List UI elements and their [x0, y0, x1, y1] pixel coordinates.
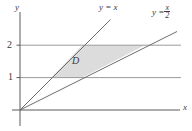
x-axis-label: x: [183, 103, 187, 112]
y-tick-label-2: 2: [7, 40, 12, 50]
line-label-y-equals-x: y = x: [99, 3, 118, 12]
shaded-region-d: [51, 45, 145, 77]
math-figure: y x 2 1 y = x y =x2 D: [0, 0, 192, 131]
fraction-x-over-2: x2: [164, 4, 170, 20]
line-y-equals-x-over-2: [20, 32, 177, 111]
fraction-denominator: 2: [164, 11, 170, 20]
line-label-y-equals-x-over-2: y =x2: [152, 5, 170, 21]
y-tick-label-1: 1: [8, 72, 13, 82]
y-axis-label: y: [15, 3, 19, 12]
line-label-lhs: y =: [152, 7, 164, 17]
region-label-d: D: [72, 56, 79, 66]
fraction-numerator: x: [164, 4, 170, 11]
